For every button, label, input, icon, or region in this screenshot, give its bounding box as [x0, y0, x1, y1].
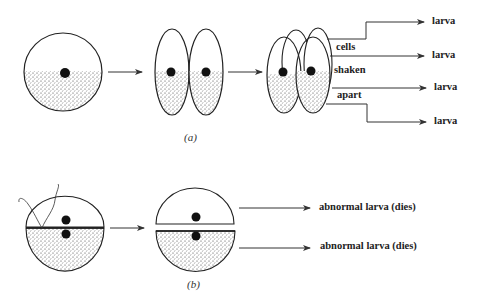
caption-b: (b) [187, 278, 200, 290]
label-shaken: shaken [334, 64, 366, 75]
label-cells: cells [336, 41, 355, 52]
outcome-abnormal-1: abnormal larva (dies) [319, 201, 416, 212]
label-apart: apart [337, 89, 362, 100]
outcome-larva-2: larva [432, 49, 455, 60]
whole-egg [20, 33, 110, 116]
outcome-larva-4: larva [434, 115, 457, 126]
egg-cut-equatorially [19, 184, 104, 271]
four-cell-stage [262, 28, 337, 119]
nucleus [60, 68, 70, 78]
separated-halves [156, 188, 235, 271]
outcome-arrows-b [239, 208, 310, 248]
outcome-larva-3: larva [434, 81, 457, 92]
two-cell-stage [150, 29, 225, 121]
outcome-larva-1: larva [432, 15, 455, 26]
outcome-abnormal-2: abnormal larva (dies) [320, 240, 417, 251]
caption-a: (a) [184, 131, 197, 143]
